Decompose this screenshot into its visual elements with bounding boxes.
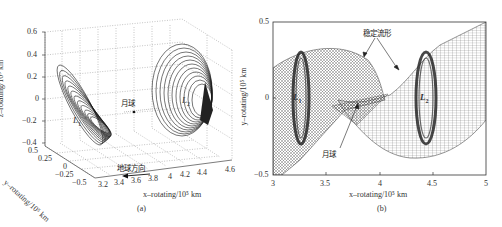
x-tick: 3 (271, 179, 275, 188)
y-tick: 0.5 (259, 17, 269, 26)
panel-b-graphics (0, 0, 502, 227)
stable-manifold-label: 稳定流形 (363, 27, 391, 38)
x-tick: 4 (378, 179, 382, 188)
x-tick: 3.5 (320, 179, 330, 188)
l2-label: L2 (420, 92, 429, 104)
l1-label: L1 (293, 92, 302, 104)
x-tick: 4.5 (427, 179, 437, 188)
moon-label: 月球 (322, 148, 336, 159)
x-axis-label: x–rotating/10⁵ km (349, 190, 407, 199)
y-tick: −0.5 (254, 170, 269, 179)
y-tick: 0 (265, 93, 269, 102)
x-tick: 5 (484, 179, 488, 188)
y-axis-label: y–rotating/10⁵ km (239, 67, 248, 125)
panel-b-caption: (b) (377, 204, 386, 213)
panel-b-manifold-plot: 0.5 0 −0.5 y–rotating/10⁵ km 3 3.5 4 4.5… (0, 0, 502, 227)
